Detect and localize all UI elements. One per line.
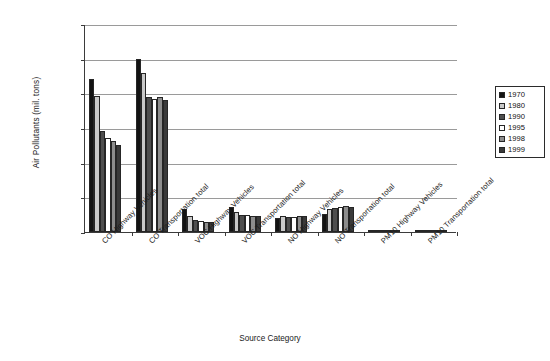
legend-label: 1998 — [508, 133, 525, 144]
legend-label: 1990 — [508, 111, 525, 122]
y-tick-mark — [81, 129, 85, 130]
legend-label: 1999 — [508, 144, 525, 155]
legend-label: 1980 — [508, 100, 525, 111]
x-axis-title: Source Category — [84, 334, 456, 343]
legend-label: 1995 — [508, 122, 525, 133]
bar — [163, 100, 168, 232]
x-tick-mark — [411, 232, 412, 236]
bar-group — [89, 25, 121, 232]
y-tick-mark — [81, 164, 85, 165]
legend-item: 1980 — [499, 100, 542, 111]
legend-item: 1995 — [499, 122, 542, 133]
legend-swatch-icon — [499, 92, 505, 98]
y-tick-mark — [81, 60, 85, 61]
bar-chart: Air Pollutants (mil. tons) 0.0020.0040.0… — [0, 0, 550, 361]
legend-swatch-icon — [499, 125, 505, 131]
chart-legend: 197019801990199519981999 — [495, 86, 545, 158]
y-axis-title: Air Pollutants (mil. tons) — [32, 43, 41, 203]
y-tick-mark — [81, 25, 85, 26]
x-tick-mark — [364, 232, 365, 236]
x-tick-mark — [225, 232, 226, 236]
x-tick-mark — [271, 232, 272, 236]
legend-swatch-icon — [499, 103, 505, 109]
legend-swatch-icon — [499, 147, 505, 153]
legend-item: 1999 — [499, 144, 542, 155]
legend-item: 1990 — [499, 111, 542, 122]
legend-label: 1970 — [508, 89, 525, 100]
legend-swatch-icon — [499, 114, 505, 120]
x-tick-mark — [132, 232, 133, 236]
legend-item: 1998 — [499, 133, 542, 144]
legend-swatch-icon — [499, 136, 505, 142]
x-tick-mark — [457, 232, 458, 236]
x-tick-mark — [178, 232, 179, 236]
x-tick-mark — [318, 232, 319, 236]
y-tick-mark — [81, 198, 85, 199]
legend-item: 1970 — [499, 89, 542, 100]
y-tick-mark — [81, 94, 85, 95]
y-tick-mark — [81, 233, 85, 234]
